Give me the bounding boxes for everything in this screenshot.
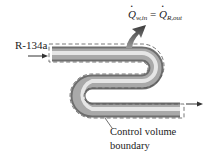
control-volume-label-line2: boundary [110,139,176,153]
control-volume-label-line1: Control volume [110,125,176,139]
heat-exchanger-diagram: Qw,in = QR,out R-134a Control volume bou… [0,0,215,164]
q-dot-lhs: Q [128,8,136,20]
inlet-arrow-icon [28,54,48,59]
energy-balance-equation: Qw,in = QR,out [128,8,182,22]
equals-sign: = [150,8,156,20]
refrigerant-label: R-134a [15,39,47,51]
outlet-arrow-icon [186,102,203,107]
rhs-subscript: R,out [167,14,182,22]
diagram-canvas [0,0,215,164]
lhs-subscript: w,in [136,14,147,22]
control-volume-label: Control volume boundary [110,125,176,153]
q-dot-rhs: Q [159,8,167,20]
heat-flow-arrow-icon [126,25,146,48]
